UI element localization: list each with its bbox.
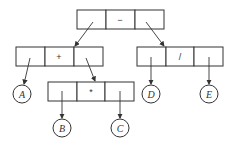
node-mul-op: * <box>89 87 93 97</box>
leaf-E: E <box>200 85 218 103</box>
svg-text:B: B <box>59 123 65 134</box>
svg-text:C: C <box>117 123 124 134</box>
node-mul: * <box>48 82 134 101</box>
leaf-B: B <box>53 119 71 137</box>
svg-text:A: A <box>18 89 26 100</box>
leaf-A: A <box>13 85 31 103</box>
svg-text:D: D <box>146 89 155 100</box>
edges <box>24 22 209 118</box>
leaf-D: D <box>142 85 160 103</box>
node-div: / <box>137 47 223 66</box>
svg-text:E: E <box>205 89 212 100</box>
node-plus-op: + <box>56 52 61 62</box>
node-root-op: − <box>117 15 122 25</box>
leaf-C: C <box>111 119 129 137</box>
expression-tree-diagram: − + / * A D E <box>0 0 231 150</box>
